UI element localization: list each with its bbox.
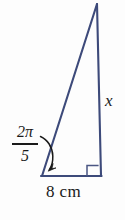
- side-label-x: x: [105, 92, 113, 109]
- angle-numerator: 2π: [9, 123, 41, 142]
- right-angle-icon: [87, 166, 99, 177]
- angle-denominator: 5: [9, 146, 41, 165]
- angle-label: 2π 5: [9, 123, 41, 165]
- base-length-label: 8 cm: [46, 183, 81, 200]
- angle-arrowhead-icon: [48, 164, 56, 172]
- triangle-figure: 2π 5 x 8 cm: [0, 0, 125, 220]
- vertical-side-line: [97, 4, 101, 176]
- fraction-bar: [12, 143, 38, 144]
- hypotenuse-line: [42, 4, 97, 176]
